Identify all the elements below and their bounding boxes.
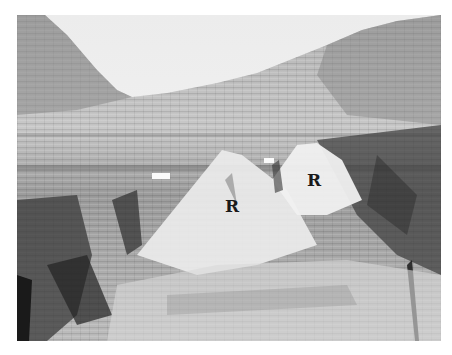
cliff-scene	[17, 15, 441, 341]
rock-label-r-right: R	[307, 172, 321, 189]
rock-label-r-left: R	[225, 198, 239, 215]
cliff-photograph	[17, 15, 441, 341]
